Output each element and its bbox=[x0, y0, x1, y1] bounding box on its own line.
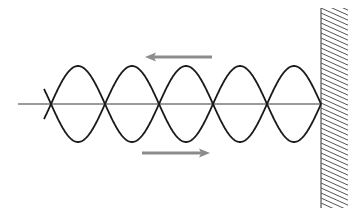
hatch-line bbox=[321, 98, 348, 110]
hatch-line bbox=[321, 158, 348, 170]
hatch-line bbox=[321, 88, 348, 100]
hatch-line bbox=[321, 83, 348, 95]
direction-arrows bbox=[142, 53, 212, 158]
hatch-line bbox=[321, 123, 348, 135]
hatch-line bbox=[321, 18, 348, 30]
hatch-line bbox=[321, 113, 348, 125]
hatch-line bbox=[321, 153, 348, 165]
hatch-line bbox=[321, 163, 348, 175]
hatch-line bbox=[321, 48, 348, 60]
hatch-line bbox=[321, 173, 348, 185]
hatch-line bbox=[321, 138, 348, 150]
hatch-line bbox=[321, 33, 348, 45]
hatch-line bbox=[321, 8, 348, 20]
hatch-line bbox=[321, 108, 348, 120]
hatch-line bbox=[321, 63, 348, 75]
hatch-line bbox=[321, 188, 348, 200]
hatch-line bbox=[321, 3, 348, 15]
hatch-line bbox=[321, 68, 348, 80]
hatch-line bbox=[321, 178, 348, 190]
hatch-line bbox=[321, 128, 348, 140]
hatch-line bbox=[321, 93, 348, 105]
hatch-line bbox=[321, 213, 348, 220]
hatch-line bbox=[321, 78, 348, 90]
hatch-line bbox=[321, 53, 348, 65]
hatch-line bbox=[321, 218, 348, 220]
hatch-line bbox=[321, 73, 348, 85]
hatch-line bbox=[321, 193, 348, 205]
hatch-line bbox=[321, 38, 348, 50]
hatch-line bbox=[321, 43, 348, 55]
hatch-line bbox=[321, 208, 348, 220]
hatch-line bbox=[321, 58, 348, 70]
hatch-line bbox=[321, 103, 348, 115]
hatch-line bbox=[321, 28, 348, 40]
hatch-line bbox=[321, 168, 348, 180]
wall-hatching bbox=[321, 0, 348, 220]
hatch-line bbox=[321, 133, 348, 145]
hatch-line bbox=[321, 0, 348, 5]
hatch-line bbox=[321, 183, 348, 195]
diagram-canvas bbox=[0, 0, 363, 220]
reflected-direction-arrow bbox=[142, 149, 210, 158]
standing-wave-diagram bbox=[0, 0, 363, 220]
hatch-line bbox=[321, 148, 348, 160]
hatch-line bbox=[321, 23, 348, 35]
hatch-line bbox=[321, 118, 348, 130]
hatch-line bbox=[321, 203, 348, 215]
incident-direction-arrow bbox=[145, 53, 212, 62]
hatch-line bbox=[321, 143, 348, 155]
hatch-line bbox=[321, 13, 348, 25]
hatch-line bbox=[321, 198, 348, 210]
